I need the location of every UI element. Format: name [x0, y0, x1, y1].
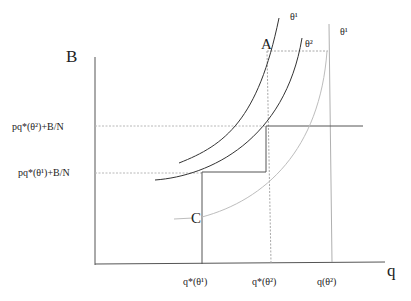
curve-theta2-dark	[155, 38, 302, 180]
label-theta1-dark: θ¹	[290, 11, 298, 22]
diagram-canvas: B q θ¹ θ² θ¹ A C pq*(θ²)+B/N pq*(θ¹)+B/N…	[0, 0, 411, 301]
label-theta1-light: θ¹	[340, 26, 348, 37]
curve-theta1-light	[202, 51, 327, 217]
x-axis-label: q	[387, 261, 396, 280]
xtick-qstar-theta2: q*(θ²)	[252, 276, 276, 288]
y-axis-label: B	[66, 47, 77, 66]
vertical-q-theta2	[329, 24, 332, 262]
label-theta2-dark: θ²	[305, 38, 313, 49]
point-C-label: C	[191, 210, 201, 226]
xtick-qstar-theta1: q*(θ¹)	[183, 276, 207, 288]
x-axis	[95, 262, 385, 264]
guide-vertical-qstar-theta2	[267, 51, 271, 263]
step-function	[202, 126, 363, 264]
xtick-q-theta2: q(θ²)	[317, 276, 336, 288]
ytick-theta1-level: pq*(θ¹)+B/N	[18, 167, 70, 179]
ytick-theta2-level: pq*(θ²)+B/N	[12, 121, 64, 133]
point-A-label: A	[261, 36, 272, 52]
